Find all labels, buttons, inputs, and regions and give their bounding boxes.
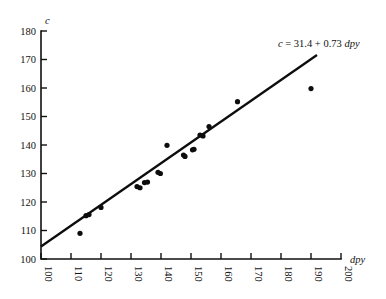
regression-equation: c = 31.4 + 0.73 dpy (278, 38, 360, 49)
data-points-group (77, 86, 313, 236)
y-tick-label: 140 (20, 140, 36, 151)
y-tick-label: 100 (20, 254, 36, 265)
x-tick-label: 180 (283, 266, 294, 282)
y-tick-label: 180 (20, 26, 36, 37)
axis-lines (41, 31, 341, 259)
y-tick-label: 110 (21, 225, 36, 236)
x-tick-label: 160 (223, 266, 234, 282)
data-point (145, 179, 150, 184)
x-tick-label: 170 (253, 266, 264, 282)
data-point (158, 171, 163, 176)
x-tick-label: 100 (43, 266, 54, 282)
data-point (182, 154, 187, 159)
y-axis-title: c (45, 15, 50, 26)
axes-group (41, 31, 341, 259)
x-tick-label: 200 (343, 266, 354, 282)
data-point (206, 124, 211, 129)
data-point (137, 185, 142, 190)
x-tick-label: 110 (73, 266, 84, 281)
x-axis-title: dpy (350, 254, 366, 265)
data-point (164, 143, 169, 148)
scatter-plot-svg: 100110120130140150160170180c100110120130… (0, 0, 386, 299)
y-tick-label: 120 (20, 197, 36, 208)
data-point (200, 133, 205, 138)
chart-page: 100110120130140150160170180c100110120130… (0, 0, 386, 299)
data-point (86, 212, 91, 217)
data-point (191, 147, 196, 152)
data-point (98, 205, 103, 210)
regression-line (41, 55, 317, 246)
x-tick-label: 140 (163, 266, 174, 282)
y-axis-ticks: 100110120130140150160170180 (20, 26, 47, 265)
x-tick-label: 120 (103, 266, 114, 282)
x-tick-label: 150 (193, 266, 204, 282)
data-point (308, 86, 313, 91)
data-point (235, 99, 240, 104)
y-tick-label: 170 (20, 54, 36, 65)
y-tick-label: 150 (20, 111, 36, 122)
y-tick-label: 160 (20, 83, 36, 94)
y-tick-label: 130 (20, 168, 36, 179)
x-tick-label: 190 (313, 266, 324, 282)
x-axis-ticks: 100110120130140150160170180190200 (41, 253, 354, 282)
x-tick-label: 130 (133, 266, 144, 282)
data-point (77, 231, 82, 236)
